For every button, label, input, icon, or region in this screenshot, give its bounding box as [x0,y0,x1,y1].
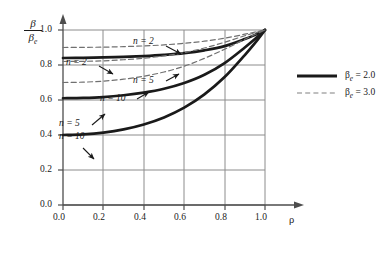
x-axis-label: ρ [289,214,294,225]
y-tick-label-0.4: 0.4 [40,129,52,139]
y-tick-label-0.8: 0.8 [40,59,52,69]
annotation-arrows [83,46,181,159]
y-axis-label-numerator: β [28,18,37,30]
x-tick-label-0.0: 0.0 [53,212,65,222]
y-tick-label-0.6: 0.6 [40,94,52,104]
data-curves [63,30,265,135]
curve-annotation-n2-solid: n = 2 [66,57,87,67]
y-axis-label-denominator: βe [27,32,40,46]
curve-annotation-n5-solid: n = 5 [59,118,80,128]
x-axis-ticks [63,205,265,210]
y-tick-label-1.0: 1.0 [40,24,52,34]
curve-n=2-solid [63,30,265,58]
chart-figure [0,0,386,264]
legend-label-beta-e-3: βe = 3.0 [345,87,375,100]
x-tick-label-0.4: 0.4 [134,212,146,222]
y-tick-label-0.2: 0.2 [40,164,52,174]
curve-annotation-n10-dashed: n = 10 [100,93,125,103]
curve-annotation-n2-dashed: n = 2 [133,36,154,46]
legend-label-beta-e-2: βe = 2.0 [345,70,375,83]
x-tick-label-1.0: 1.0 [255,212,267,222]
y-tick-label-0.0: 0.0 [40,199,52,209]
x-tick-label-0.6: 0.6 [174,212,186,222]
x-tick-label-0.2: 0.2 [93,212,105,222]
curve-n=5-solid [63,30,265,98]
curve-n=10-solid [63,30,265,135]
curve-annotation-n5-dashed: n = 5 [133,75,154,85]
curve-annotation-n10-solid: n = 10 [59,131,84,141]
x-tick-label-0.8: 0.8 [215,212,227,222]
legend-symbols [297,76,337,93]
